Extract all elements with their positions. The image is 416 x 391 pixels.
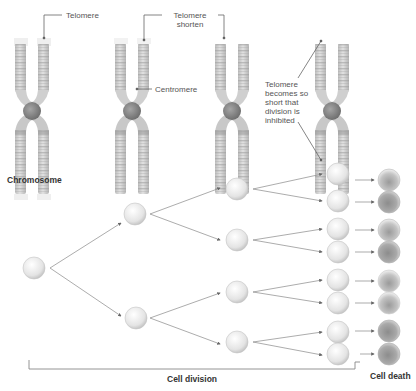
cells-generation-0 bbox=[23, 257, 45, 279]
cells-generation-2 bbox=[226, 178, 248, 353]
dying-cells bbox=[378, 169, 400, 365]
telomere-pointer bbox=[43, 15, 62, 39]
inhibited-line-2: becomes so bbox=[265, 89, 308, 98]
inhibited-line-3: short that bbox=[265, 98, 308, 107]
telomere-shorten-line-1: Telomere bbox=[164, 11, 216, 20]
centromere-label: Centromere bbox=[155, 85, 197, 94]
cells-generation-1 bbox=[124, 203, 147, 329]
cell-division-bracket bbox=[29, 360, 360, 369]
cell-division-label: Cell division bbox=[167, 375, 217, 384]
cell-death-label: Cell death bbox=[370, 372, 411, 381]
chromosome-3 bbox=[215, 44, 249, 194]
inhibited-line-1: Telomere bbox=[265, 80, 308, 89]
telomere-label: Telomere bbox=[66, 11, 99, 20]
inhibited-label: Telomere becomes so short that division … bbox=[265, 80, 308, 125]
inhibited-line-4: division is bbox=[265, 107, 308, 116]
division-arrows bbox=[50, 174, 374, 355]
chromosome-label: Chromosome bbox=[7, 176, 62, 185]
cells-generation-3 bbox=[327, 163, 349, 365]
chromosome-2 bbox=[114, 38, 151, 194]
telomere-shorten-line-2: shorten bbox=[164, 20, 216, 29]
inhibited-line-5: inhibited bbox=[265, 116, 308, 125]
telomere-shorten-label: Telomere shorten bbox=[164, 11, 216, 29]
telomere-diagram bbox=[0, 0, 416, 391]
